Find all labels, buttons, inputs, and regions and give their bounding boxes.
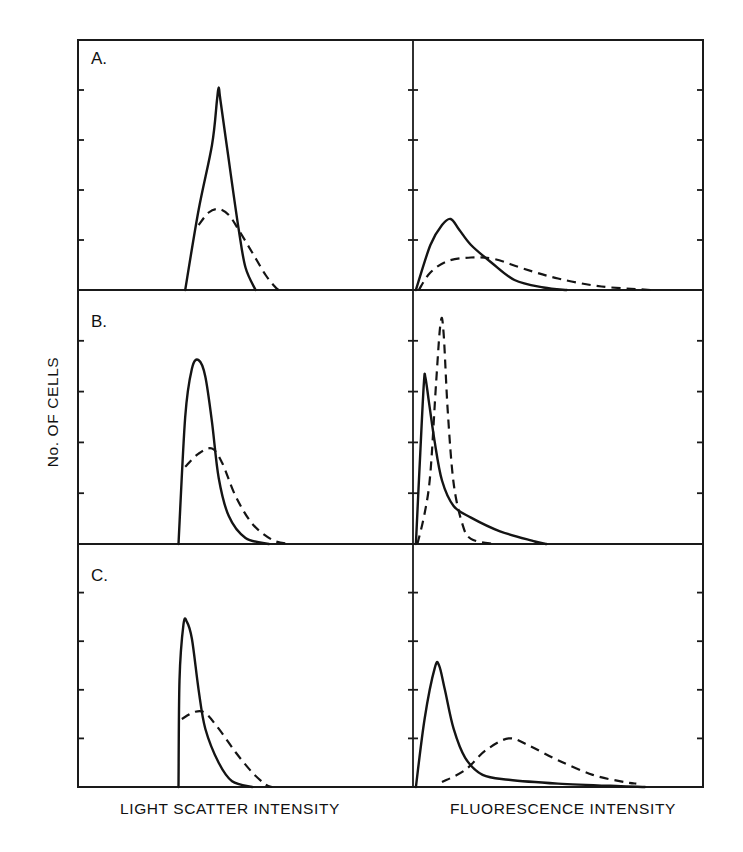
solid-curve <box>179 618 253 787</box>
outer-frame <box>78 40 703 787</box>
panel-a <box>185 88 279 291</box>
y-axis-label: No. OF CELLS <box>44 357 61 468</box>
solid-curve <box>179 360 269 544</box>
panel-label-a: A. <box>91 49 107 68</box>
solid-curve <box>416 219 567 290</box>
solid-curve <box>185 88 255 291</box>
y-axis-ticks <box>78 90 703 738</box>
dashed-curve <box>199 209 279 290</box>
panel-b-fluor <box>416 318 547 544</box>
panel-a-fluor <box>416 219 651 290</box>
solid-curve <box>416 662 645 787</box>
solid-curve <box>416 374 547 544</box>
panel-c-fluor <box>416 662 645 787</box>
panel-frames <box>78 40 703 787</box>
panel-label-b: B. <box>91 312 107 331</box>
dashed-curve <box>442 738 636 783</box>
panel-c <box>179 618 273 787</box>
panel-label-c: C. <box>91 566 108 585</box>
flow-cytometry-figure: A. B. C. No. OF CELLS LIGHT SCATTER INTE… <box>0 0 743 852</box>
panel-b <box>179 360 290 544</box>
x-axis-label-light-scatter: LIGHT SCATTER INTENSITY <box>120 800 340 817</box>
dashed-curve <box>417 318 494 544</box>
histogram-curves <box>179 88 651 788</box>
x-axis-label-fluorescence: FLUORESCENCE INTENSITY <box>450 800 676 817</box>
